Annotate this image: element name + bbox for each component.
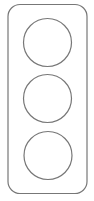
top-light-circle <box>24 19 72 67</box>
traffic-light-housing <box>8 5 87 194</box>
middle-light-circle <box>24 75 72 123</box>
bottom-light-circle <box>24 132 72 180</box>
traffic-light-diagram <box>0 0 94 201</box>
